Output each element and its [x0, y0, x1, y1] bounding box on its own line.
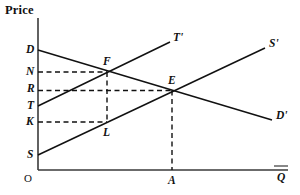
point-label-E: E [168, 75, 176, 87]
x-axis-label-Q: Q [277, 172, 285, 184]
supply-curve-SSprime [38, 48, 265, 155]
y-tick-label-S: S [27, 149, 33, 161]
price-quantity-diagram: Price D N R T K S O A Q F E L T' S' D' [0, 0, 300, 195]
y-tick-label-T: T [27, 100, 34, 112]
y-tick-label-D: D [26, 44, 34, 56]
y-tick-label-N: N [26, 66, 34, 78]
y-tick-label-R: R [27, 83, 35, 95]
y-tick-label-K: K [26, 116, 34, 128]
supply-curve-TTprime [38, 42, 170, 106]
curve-label-Dprime: D' [276, 110, 288, 122]
page-title: Price [5, 4, 34, 17]
point-label-F: F [103, 56, 111, 68]
curve-label-Sprime: S' [269, 38, 279, 50]
diagram-canvas [0, 0, 300, 195]
point-label-L: L [103, 127, 110, 139]
origin-label: O [24, 173, 32, 184]
curve-label-Tprime: T' [173, 32, 183, 44]
x-tick-label-A: A [168, 175, 176, 187]
